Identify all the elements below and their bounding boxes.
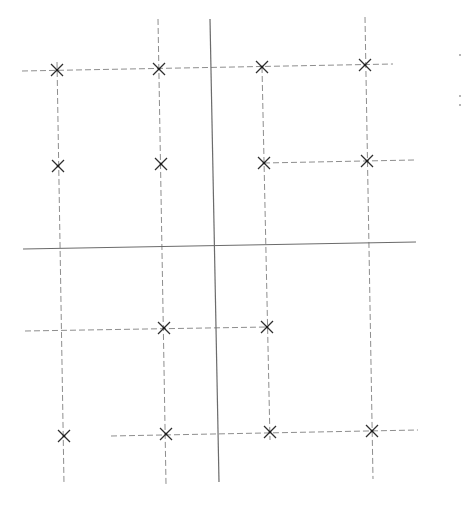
margin-speck — [459, 54, 461, 56]
col-2-dashed-line — [158, 19, 166, 484]
col-3-dashed-line — [262, 67, 270, 440]
solid-divider-lines — [23, 19, 416, 482]
diagram-canvas — [0, 0, 463, 507]
row-2-dashed-line — [264, 160, 414, 163]
col-1-dashed-line — [57, 62, 64, 484]
margin-specks — [459, 54, 461, 106]
x-marker-icon — [158, 322, 170, 334]
vertical-solid-divider — [210, 19, 219, 482]
row-1-dashed-line — [22, 64, 393, 71]
col-4-dashed-line — [365, 17, 373, 479]
margin-speck — [459, 95, 461, 97]
margin-speck — [459, 104, 461, 106]
dashed-guide-lines — [22, 17, 418, 484]
horizontal-solid-divider — [23, 242, 416, 249]
x-marker-icon — [52, 160, 64, 172]
x-marker-icon — [58, 430, 70, 442]
x-marker-icon — [160, 428, 172, 440]
